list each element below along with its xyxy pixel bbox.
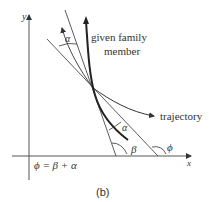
- family-member-label-line2: member: [104, 45, 140, 57]
- phi-arc: [152, 147, 166, 154]
- y-axis-label: y: [21, 11, 27, 22]
- family-member-arrow-icon: [83, 16, 89, 24]
- alpha-top-label: α: [65, 33, 71, 44]
- trajectory-label: trajectory: [160, 110, 203, 122]
- orthogonal-trajectory-diagram: y x α given family member trajectory α β…: [0, 0, 211, 202]
- beta-label: β: [130, 143, 137, 155]
- phi-label: ϕ: [167, 141, 173, 153]
- x-axis-label: x: [186, 158, 191, 168]
- figure-caption: (b): [96, 186, 109, 198]
- trajectory-tangent-line: [47, 39, 158, 156]
- beta-arc: [112, 143, 127, 154]
- equation-label: ϕ = β + α: [34, 159, 77, 171]
- family-member-label-line1: given family: [91, 31, 147, 43]
- alpha-bottom-label: α: [122, 122, 128, 133]
